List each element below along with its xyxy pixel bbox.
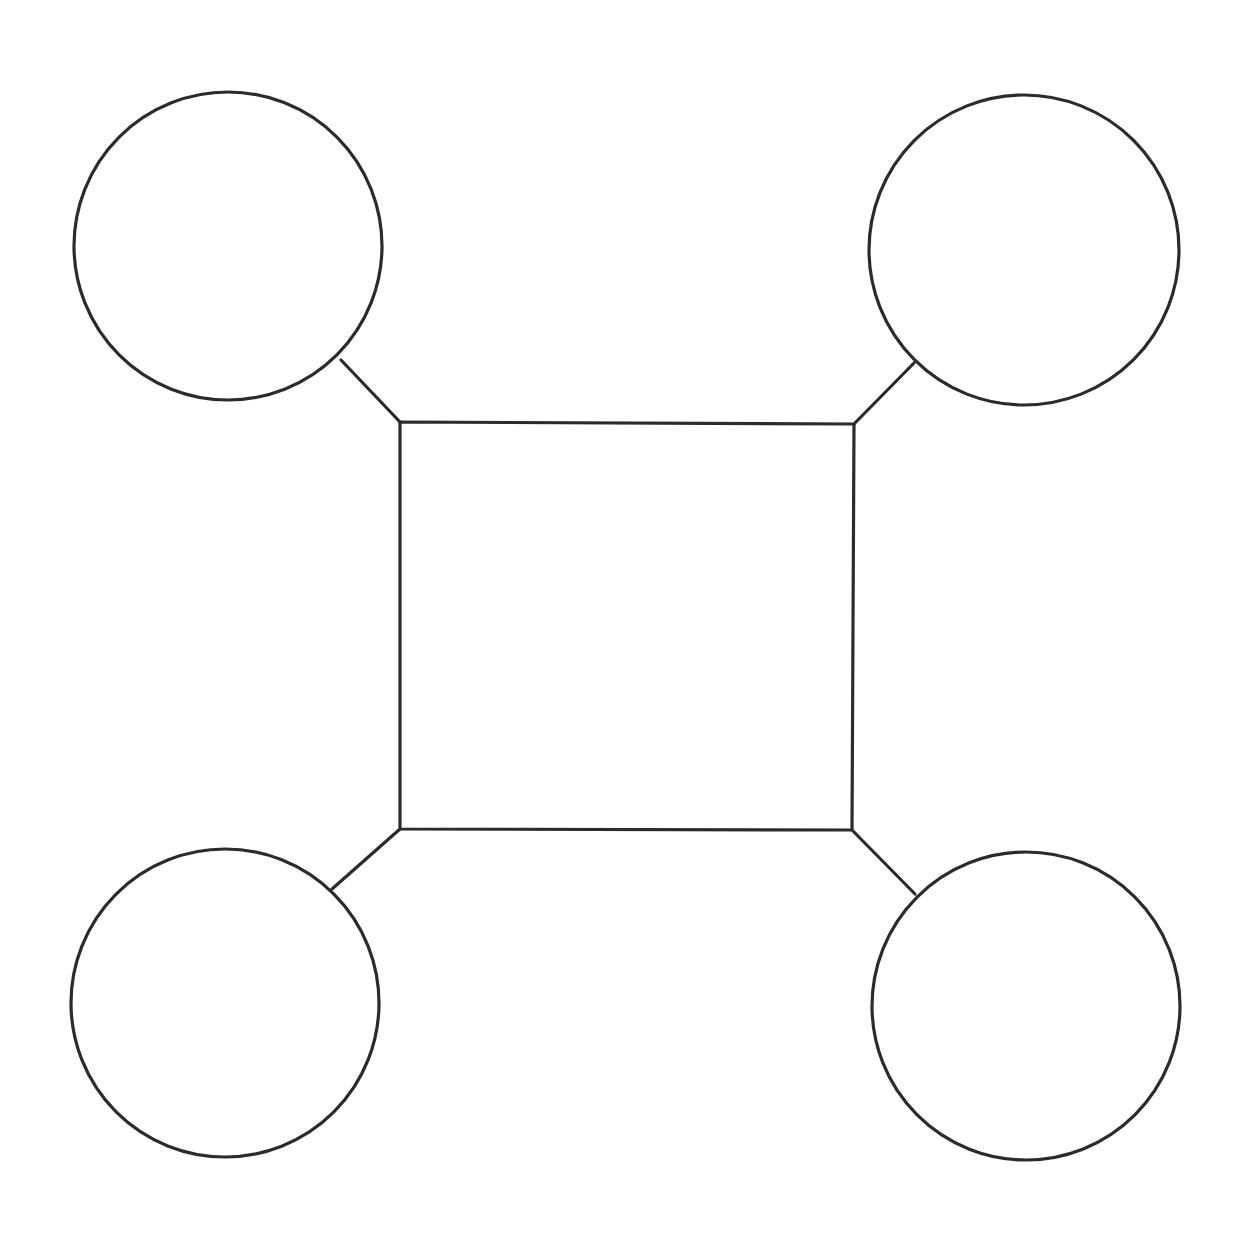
connector-bottom-right bbox=[852, 830, 915, 894]
connector-lines bbox=[332, 360, 915, 894]
center-box bbox=[400, 422, 854, 830]
node-top-left bbox=[74, 92, 382, 400]
node-bottom-right bbox=[872, 852, 1180, 1160]
node-circle bbox=[869, 95, 1179, 405]
connector-bottom-left bbox=[332, 829, 400, 889]
node-top-right bbox=[869, 95, 1179, 405]
node-circle bbox=[71, 849, 379, 1157]
node-circle bbox=[872, 852, 1180, 1160]
diagram-canvas bbox=[0, 0, 1254, 1256]
node-bottom-left bbox=[71, 849, 379, 1157]
connector-top-right bbox=[854, 363, 914, 424]
node-circle bbox=[74, 92, 382, 400]
outer-nodes bbox=[71, 92, 1180, 1160]
connector-top-left bbox=[341, 360, 400, 422]
